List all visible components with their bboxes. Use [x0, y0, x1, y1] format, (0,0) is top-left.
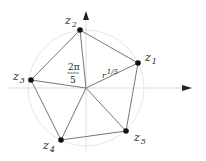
point-z2 [77, 27, 83, 33]
label-z3: z3 [12, 70, 25, 85]
label-z5: z5 [133, 131, 146, 146]
point-z5 [123, 128, 129, 134]
label-z4: z4 [42, 139, 55, 154]
pentagon-diagram: z1 z2 z3 z4 z5 2π 5 r1/5 [0, 0, 206, 161]
spoke-z2 [80, 30, 86, 88]
spoke-z4 [61, 88, 86, 140]
vertical-axis-arrow-icon [83, 11, 89, 20]
label-z1: z1 [144, 51, 157, 66]
pentagon-outline [31, 30, 138, 140]
point-z4 [58, 137, 64, 143]
point-z1 [135, 60, 141, 66]
spoke-z3 [31, 80, 86, 88]
label-z2: z2 [64, 14, 77, 29]
spoke-z5 [86, 88, 126, 131]
angle-denominator: 5 [70, 75, 76, 85]
point-z3 [28, 77, 34, 83]
radius-label: r1/5 [102, 68, 119, 80]
spokes [31, 30, 138, 140]
angle-numerator: 2π [68, 62, 80, 72]
horizontal-axis-arrow-icon [182, 85, 192, 91]
